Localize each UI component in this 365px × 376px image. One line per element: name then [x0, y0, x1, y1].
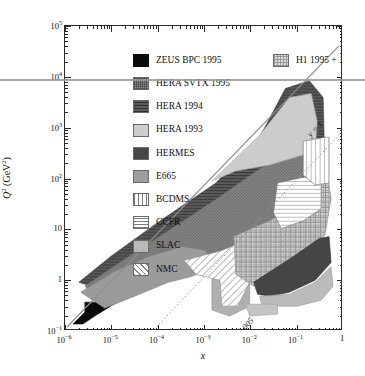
- x-tick-mark: [133, 328, 134, 330]
- legend-item-zeus-bpc-1995[interactable]: ZEUS BPC 1995: [133, 54, 221, 67]
- x-tick-mark: [93, 328, 94, 330]
- x-tick-mark: [226, 328, 227, 330]
- x-tick-mark: [65, 325, 66, 330]
- x-tick-mark-top: [243, 26, 244, 29]
- y-tick-mark: [65, 190, 68, 191]
- x-tick-mark: [289, 328, 290, 330]
- x-axis-tick-labels: 10−610−510−410−310−210−11: [64, 334, 342, 348]
- y-tick-mark-right: [340, 234, 342, 235]
- x-tick-mark-top: [172, 26, 173, 29]
- y-tick-mark: [65, 97, 68, 98]
- y-tick-mark-right: [340, 183, 342, 184]
- legend-swatch-icon: [273, 54, 289, 67]
- x-tick-mark-top: [289, 26, 290, 29]
- legend-item-label: H1 1995 + 1996: [296, 56, 342, 66]
- x-tick-mark-top: [248, 26, 249, 29]
- legend-item-label: ZEUS BPC 1995: [156, 56, 221, 66]
- x-tick-label: 10−1: [288, 334, 303, 344]
- legend-item-ccfr[interactable]: CCFR: [133, 216, 180, 229]
- legend-item-nmc[interactable]: NMC: [133, 263, 178, 276]
- y-tick-mark-right: [340, 316, 342, 317]
- x-tick-mark: [158, 325, 159, 330]
- x-tick-mark-top: [202, 26, 203, 29]
- y-tick-mark-right: [337, 229, 342, 230]
- y-tick-mark: [65, 103, 68, 104]
- y-tick-mark-right: [340, 82, 342, 83]
- y-tick-mark: [65, 256, 68, 257]
- legend-item-label: HERMES: [156, 149, 195, 159]
- scan-artifact-line: [0, 79, 365, 81]
- y-tick-mark: [65, 82, 68, 83]
- x-tick-mark-top: [87, 26, 88, 29]
- y-tick-mark: [65, 154, 68, 155]
- x-tick-mark: [286, 328, 287, 330]
- y-tick-mark: [65, 77, 71, 78]
- legend-item-slac[interactable]: SLAC: [133, 240, 180, 253]
- x-tick-mark: [319, 328, 320, 330]
- y-tick-mark-right: [340, 288, 342, 289]
- x-tick-mark: [329, 328, 330, 330]
- x-tick-mark-top: [111, 26, 112, 32]
- y-tick-mark-right: [340, 194, 342, 195]
- x-tick-mark-top: [333, 26, 334, 29]
- y-tick-mark: [65, 62, 68, 63]
- y-tick-mark-right: [340, 112, 342, 113]
- x-tick-mark: [153, 328, 154, 330]
- y-tick-label: 10: [54, 224, 63, 233]
- x-tick-mark-top: [329, 26, 330, 29]
- x-tick-mark-top: [246, 26, 247, 29]
- y-tick-mark: [65, 232, 68, 233]
- y-tick-mark-right: [337, 128, 342, 129]
- legend-item-e665[interactable]: E665: [133, 170, 176, 183]
- y-tick-mark-right: [340, 103, 342, 104]
- x-tick-mark-top: [236, 26, 237, 29]
- legend-item-label: NMC: [156, 265, 178, 275]
- y-tick-mark-right: [340, 62, 342, 63]
- x-tick-mark-top: [319, 26, 320, 29]
- x-tick-mark: [97, 328, 98, 330]
- legend-item-h1-1995-1996[interactable]: H1 1995 + 1996: [273, 54, 342, 67]
- y-tick-mark: [65, 130, 68, 131]
- y-tick-mark: [65, 241, 68, 242]
- x-tick-mark: [190, 328, 191, 330]
- y-tick-mark-right: [340, 92, 342, 93]
- x-tick-mark-top: [101, 26, 102, 29]
- y-tick-mark: [65, 194, 68, 195]
- x-tick-mark: [125, 328, 126, 330]
- x-tick-mark: [325, 328, 326, 330]
- y-tick-mark-right: [340, 265, 342, 266]
- legend-item-hera-1994[interactable]: HERA 1994: [133, 100, 203, 113]
- y-tick-mark-right: [340, 154, 342, 155]
- y-tick-mark-right: [340, 148, 342, 149]
- y-tick-mark-right: [340, 186, 342, 187]
- y-tick-mark-right: [340, 307, 342, 308]
- chart-root: Q2 (GeV2) x 10510410310210110−1 10−610−5…: [0, 0, 365, 376]
- legend-item-bcdms[interactable]: BCDMS: [133, 193, 189, 206]
- y-tick-label: 105: [50, 20, 62, 30]
- x-tick-mark: [202, 328, 203, 330]
- x-tick-mark-top: [264, 26, 265, 29]
- y-tick-label: 1: [58, 275, 62, 284]
- y-tick-mark-right: [340, 282, 342, 283]
- y-tick-mark: [65, 295, 68, 296]
- y-tick-mark-right: [340, 181, 342, 182]
- y-tick-mark-right: [340, 237, 342, 238]
- x-tick-mark: [107, 328, 108, 330]
- y-tick-mark-right: [340, 256, 342, 257]
- y-tick-mark: [65, 41, 68, 42]
- y-tick-mark: [65, 85, 68, 86]
- y-tick-mark-right: [340, 136, 342, 137]
- y-tick-mark-right: [340, 250, 342, 251]
- y-tick-mark-right: [340, 34, 342, 35]
- x-tick-mark-top: [272, 26, 273, 29]
- y-tick-mark: [65, 234, 68, 235]
- y-tick-mark: [65, 300, 68, 301]
- y-tick-label: 102: [50, 172, 62, 182]
- x-tick-mark: [295, 328, 296, 330]
- plot-area: y = 1 y = 0.005 ZEUS BPC 1995HERA SVTX 1…: [64, 25, 342, 330]
- y-tick-mark: [65, 92, 68, 93]
- y-tick-mark-right: [340, 241, 342, 242]
- legend-item-hera-1993[interactable]: HERA 1993: [133, 124, 203, 137]
- legend-item-hermes[interactable]: HERMES: [133, 147, 195, 160]
- x-tick-mark: [333, 328, 334, 330]
